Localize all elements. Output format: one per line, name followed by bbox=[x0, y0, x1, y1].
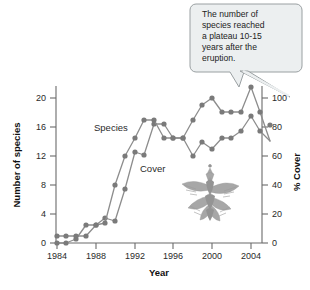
series-species bbox=[54, 84, 272, 238]
ticklabel-x-1984: 1984 bbox=[47, 251, 67, 261]
callout-line-3: a plateau 10-15 bbox=[202, 31, 262, 41]
ticklabel-right-100: 100 bbox=[272, 93, 287, 103]
ticklabel-x-1992: 1992 bbox=[125, 251, 145, 261]
axis-title-bottom: Year bbox=[149, 267, 169, 278]
cover-line bbox=[57, 116, 270, 243]
series-label-species: Species bbox=[94, 122, 128, 133]
ticklabel-x-1988: 1988 bbox=[86, 251, 106, 261]
series-cover bbox=[54, 113, 270, 245]
ticklabel-x-1996: 1996 bbox=[163, 251, 183, 261]
ticklabel-left-16: 16 bbox=[36, 122, 46, 132]
callout-line-4: years after the bbox=[202, 42, 257, 52]
axis-right: 0 20 40 60 80 100 % Cover bbox=[262, 86, 302, 248]
callout-line-1: The number of bbox=[202, 9, 259, 19]
callout-line-5: eruption. bbox=[202, 53, 235, 63]
annotation-callout: The number of species reached a plateau … bbox=[190, 4, 302, 97]
species-points bbox=[54, 84, 272, 238]
ticklabel-right-80: 80 bbox=[272, 122, 282, 132]
ticklabel-left-12: 12 bbox=[36, 151, 46, 161]
cover-points bbox=[54, 113, 262, 245]
chart-canvas: The number of species reached a plateau … bbox=[0, 0, 310, 290]
ticklabel-right-0: 0 bbox=[272, 238, 277, 248]
axis-bottom: 1984 1988 1992 1996 2000 2004 Year bbox=[47, 243, 262, 278]
ticklabel-right-40: 40 bbox=[272, 180, 282, 190]
lupine-plant-illustration bbox=[182, 164, 239, 221]
series-label-cover: Cover bbox=[140, 163, 165, 174]
ticklabel-x-2000: 2000 bbox=[202, 251, 222, 261]
axis-title-left: Number of species bbox=[11, 123, 22, 208]
axis-left: 0 4 8 12 16 20 Number of species bbox=[11, 86, 56, 248]
ticklabel-right-60: 60 bbox=[272, 151, 282, 161]
axis-title-right: % Cover bbox=[291, 153, 302, 191]
ticklabel-left-4: 4 bbox=[41, 209, 46, 219]
ticklabel-right-20: 20 bbox=[272, 209, 282, 219]
species-cover-figure: The number of species reached a plateau … bbox=[0, 0, 310, 290]
ticklabel-x-2004: 2004 bbox=[241, 251, 261, 261]
callout-line-2: species reached bbox=[202, 20, 265, 30]
ticklabel-left-8: 8 bbox=[41, 180, 46, 190]
species-line bbox=[57, 87, 270, 236]
ticklabel-left-20: 20 bbox=[36, 93, 46, 103]
ticklabel-left-0: 0 bbox=[41, 238, 46, 248]
